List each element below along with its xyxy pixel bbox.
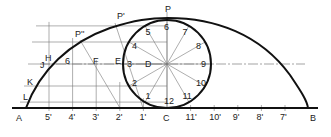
tick-label: 4' [69,112,76,122]
circle-point-label: 4 [132,41,137,51]
tick-label: 8' [256,112,263,122]
tick-label: 11' [186,112,197,122]
circle-point-label: 9 [201,59,206,69]
tick-label: 7' [280,112,287,122]
centerline-label: E [115,56,121,66]
tick-label: 9' [233,112,240,122]
construction-lines [20,12,305,111]
arc-label: K [27,77,33,87]
centerline-label: 6 [65,56,70,66]
diagram-canvas: 5'4'3'2'1'11'10'9'8'7'ABCPDP'P''6FEHJKL1… [0,0,331,137]
tick-label: 5' [45,112,52,122]
arc-label: H [45,53,52,63]
tick-label: 1' [139,112,146,122]
centerline-label: F [93,56,99,66]
tick-label: 10' [209,112,221,122]
circle-point-label: 2 [132,78,137,88]
point-p-label: P [165,4,171,14]
arc-label: J [40,60,45,70]
circle-point-label: 8 [196,41,201,51]
point-c-label: C [163,113,170,123]
circle-point-label: 10 [196,78,206,88]
circle-point-label: 5 [146,27,151,37]
point-p1-label: P' [117,11,125,21]
circle-point-label: 6 [164,22,169,32]
point-b-label: B [310,113,316,123]
diagonal-construction [80,40,120,108]
circle-point-label: 11 [183,91,192,101]
tick-label: 3' [92,112,99,122]
circle-point-label: 3 [127,59,132,69]
point-d-label: D [145,59,152,69]
point-a-label: A [16,113,22,123]
circle-point-label: 1 [146,91,151,101]
arc-label: L [23,92,28,102]
circle-point-label: 12 [164,96,174,106]
point-p2-label: P'' [75,29,85,39]
cycloid-diagram: 5'4'3'2'1'11'10'9'8'7'ABCPDP'P''6FEHJKL1… [0,0,331,137]
circle-point-label: 7 [183,27,188,37]
tick-label: 2' [116,112,123,122]
